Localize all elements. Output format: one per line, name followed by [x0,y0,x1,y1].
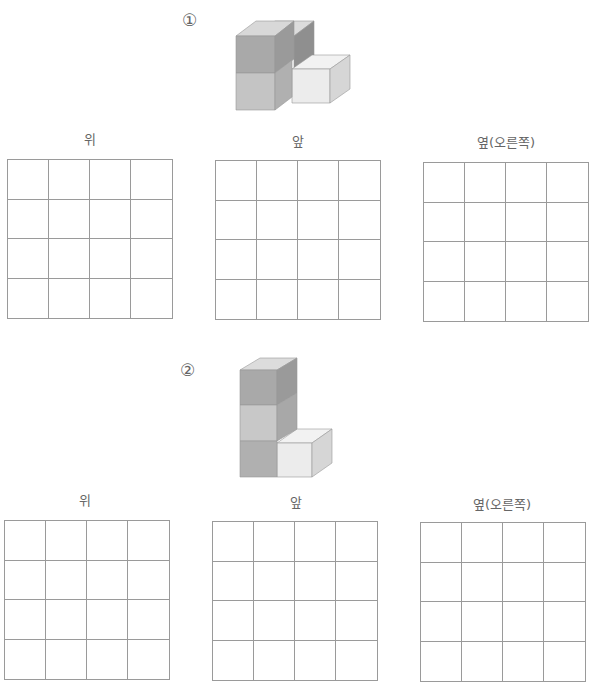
grid-cell[interactable] [506,163,547,203]
grid-cell[interactable] [465,203,506,243]
grid-cell[interactable] [213,641,254,681]
grid-cell[interactable] [5,640,46,680]
grid-cell[interactable] [421,602,462,642]
grid-cell[interactable] [128,521,169,561]
grid-cell[interactable] [8,200,49,240]
grid-cell[interactable] [295,522,336,562]
grid-cell[interactable] [421,563,462,603]
grid-cell[interactable] [424,203,465,243]
grid-cell[interactable] [465,163,506,203]
grid-cell[interactable] [336,522,377,562]
grid-cell[interactable] [503,642,544,682]
grid-cell[interactable] [128,640,169,680]
grid-cell[interactable] [298,161,339,201]
grid-cell[interactable] [8,239,49,279]
grid-cell[interactable] [213,601,254,641]
grid-cell[interactable] [87,600,128,640]
grid-cell[interactable] [46,521,87,561]
grid-cell[interactable] [49,239,90,279]
grid-cell[interactable] [506,203,547,243]
grid-cell[interactable] [213,522,254,562]
grid-cell[interactable] [131,160,172,200]
grid-cell[interactable] [5,600,46,640]
grid-cell[interactable] [503,563,544,603]
grid-cell[interactable] [544,563,585,603]
grid-cell[interactable] [462,642,503,682]
grid-cell[interactable] [424,242,465,282]
grid-cell[interactable] [8,160,49,200]
grid-cell[interactable] [424,282,465,322]
grid-cell[interactable] [336,562,377,602]
grid-cell[interactable] [257,201,298,241]
grid-cell[interactable] [213,562,254,602]
grid-cell[interactable] [128,600,169,640]
grid-cell[interactable] [544,523,585,563]
grid-cell[interactable] [90,279,131,319]
grid-cell[interactable] [295,562,336,602]
grid-cell[interactable] [216,280,257,320]
grid-cell[interactable] [254,522,295,562]
grid-cell[interactable] [87,640,128,680]
grid-cell[interactable] [339,201,380,241]
grid-cell[interactable] [257,240,298,280]
grid-cell[interactable] [336,601,377,641]
grid-cell[interactable] [506,282,547,322]
answer-grid-side-1[interactable] [423,162,589,322]
grid-cell[interactable] [544,642,585,682]
grid-cell[interactable] [547,282,588,322]
grid-cell[interactable] [8,279,49,319]
grid-cell[interactable] [547,242,588,282]
grid-cell[interactable] [298,201,339,241]
grid-cell[interactable] [462,523,503,563]
grid-cell[interactable] [5,521,46,561]
grid-cell[interactable] [298,280,339,320]
grid-cell[interactable] [254,562,295,602]
grid-cell[interactable] [254,601,295,641]
grid-cell[interactable] [46,600,87,640]
grid-cell[interactable] [465,282,506,322]
grid-cell[interactable] [503,523,544,563]
answer-grid-side-2[interactable] [420,522,586,682]
grid-cell[interactable] [131,239,172,279]
grid-cell[interactable] [421,642,462,682]
grid-cell[interactable] [339,161,380,201]
grid-cell[interactable] [90,160,131,200]
grid-cell[interactable] [421,523,462,563]
grid-cell[interactable] [128,561,169,601]
grid-cell[interactable] [216,201,257,241]
grid-cell[interactable] [462,602,503,642]
grid-cell[interactable] [131,200,172,240]
grid-cell[interactable] [295,641,336,681]
grid-cell[interactable] [216,240,257,280]
grid-cell[interactable] [131,279,172,319]
grid-cell[interactable] [257,280,298,320]
grid-cell[interactable] [506,242,547,282]
grid-cell[interactable] [49,160,90,200]
grid-cell[interactable] [5,561,46,601]
grid-cell[interactable] [503,602,544,642]
answer-grid-front-1[interactable] [215,160,381,320]
answer-grid-top-1[interactable] [7,159,173,319]
grid-cell[interactable] [336,641,377,681]
grid-cell[interactable] [49,200,90,240]
grid-cell[interactable] [547,203,588,243]
answer-grid-top-2[interactable] [4,520,170,680]
grid-cell[interactable] [339,280,380,320]
grid-cell[interactable] [462,563,503,603]
grid-cell[interactable] [424,163,465,203]
grid-cell[interactable] [257,161,298,201]
grid-cell[interactable] [339,240,380,280]
grid-cell[interactable] [87,561,128,601]
grid-cell[interactable] [295,601,336,641]
grid-cell[interactable] [216,161,257,201]
grid-cell[interactable] [46,561,87,601]
grid-cell[interactable] [87,521,128,561]
grid-cell[interactable] [46,640,87,680]
grid-cell[interactable] [90,200,131,240]
grid-cell[interactable] [254,641,295,681]
grid-cell[interactable] [49,279,90,319]
grid-cell[interactable] [465,242,506,282]
answer-grid-front-2[interactable] [212,521,378,681]
grid-cell[interactable] [544,602,585,642]
grid-cell[interactable] [547,163,588,203]
